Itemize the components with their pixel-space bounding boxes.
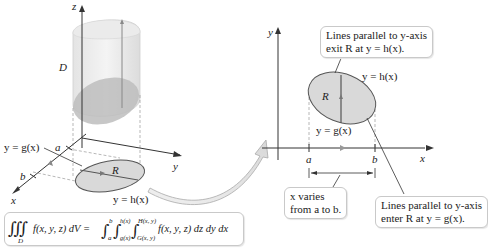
leader-x-range xyxy=(333,175,340,187)
region-r-3d xyxy=(73,155,147,197)
leader-exit xyxy=(335,56,342,73)
bound-b-2d: b xyxy=(372,153,378,165)
rhs-integrand: f(x, y, z) dz dy dx xyxy=(158,223,229,235)
upper-curve-label-3d: y = h(x) xyxy=(113,193,149,206)
solid-label: D xyxy=(58,61,67,73)
callout-enter: Lines parallel to y-axis enter R at y = … xyxy=(375,196,488,228)
y-axis-label-3d: y xyxy=(172,160,178,172)
middle-upper: h(x) xyxy=(120,217,130,225)
inner-upper: H(x, y) xyxy=(137,217,156,225)
triple-integral-formula: ∭ D f(x, y, z) dV = ∫ b a ∫ h(x) g(x) ∫ … xyxy=(4,212,244,246)
lhs-integrand: f(x, y, z) dV = xyxy=(33,223,90,235)
triple-integral-sign: ∭ xyxy=(8,218,28,238)
solid-d xyxy=(67,20,145,133)
integral-domain: D xyxy=(17,237,23,245)
outer-lower: a xyxy=(108,234,112,242)
middle-lower: g(x) xyxy=(120,234,130,242)
y-axis-label-2d: y xyxy=(267,26,273,38)
bound-a-2d: a xyxy=(306,153,312,165)
x-range-bracket xyxy=(309,168,375,178)
callout-x-range: x varies from a to b. xyxy=(284,187,347,219)
x-axis-label-2d: x xyxy=(419,152,425,164)
inner-lower: G(x, y) xyxy=(137,234,155,242)
region-label-2d: R xyxy=(321,90,329,102)
upper-curve-label-2d: y = h(x) xyxy=(362,70,398,83)
bound-a-3d: a xyxy=(55,141,61,153)
x-axis-label-3d: x xyxy=(10,194,16,206)
lower-curve-label-2d: y = g(x) xyxy=(316,124,352,137)
callout-exit: Lines parallel to y-axis exit R at y = h… xyxy=(320,26,433,58)
y-axis-3d xyxy=(82,138,182,157)
region-label-3d: R xyxy=(111,164,119,176)
lower-curve-label-3d: y = g(x) xyxy=(4,141,40,154)
bound-b-3d: b xyxy=(20,170,26,182)
y-axis-2d xyxy=(275,27,281,160)
transition-arrow xyxy=(148,140,268,205)
z-axis-label: z xyxy=(71,0,77,12)
x-axis-2d xyxy=(262,145,434,151)
